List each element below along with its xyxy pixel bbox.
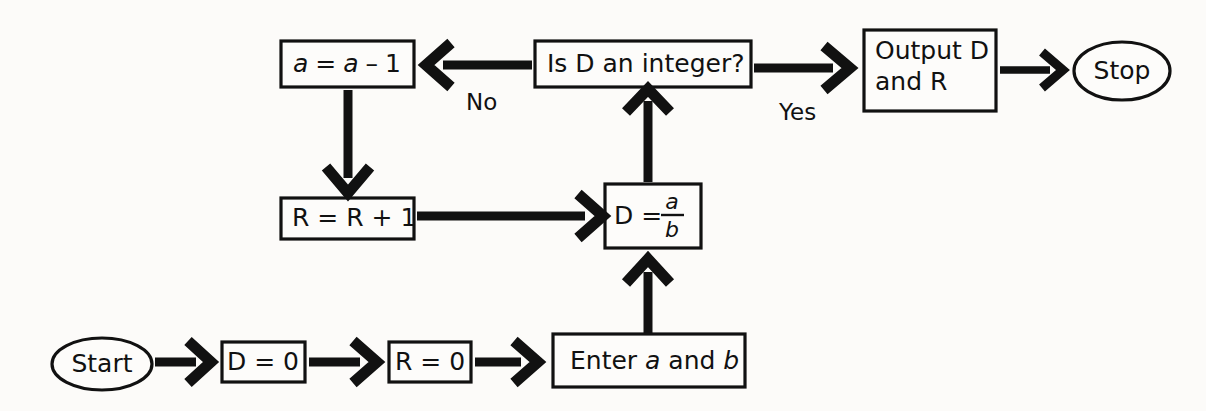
node-decrement-op-minus: – [366, 49, 379, 78]
node-enter-text-plain: Enter [570, 346, 645, 375]
node-enter-var-a: a [645, 346, 660, 375]
node-decrement[interactable]: a=a–1 [281, 41, 414, 87]
node-r-init-label: R = 0 [395, 347, 465, 376]
node-decrement-op-eq: = [315, 49, 336, 78]
edge-output-to-stop [1000, 52, 1063, 88]
node-increment-label: R = R + 1 [292, 203, 416, 232]
edge-enter-to-divide [626, 259, 670, 333]
node-enter-var-b: b [723, 346, 739, 375]
node-divide-numerator: a [665, 189, 678, 214]
flowchart-canvas: a=a–1 Is D an integer? Output D and R St… [0, 0, 1206, 411]
node-stop-label: Stop [1094, 56, 1151, 85]
edge-start-to-d-init [155, 341, 211, 383]
node-divide-denominator: b [665, 217, 679, 242]
edge-label-no: No [466, 89, 497, 115]
node-output[interactable]: Output D and R [864, 30, 996, 111]
edge-decrement-to-increment [326, 90, 370, 193]
edge-divide-to-decision [626, 89, 670, 182]
edge-r-init-to-enter [475, 341, 538, 383]
node-output-label-line2: and R [875, 67, 947, 96]
edge-increment-to-divide [417, 194, 603, 238]
node-divide-lhs: D = [614, 201, 662, 230]
node-start[interactable]: Start [52, 338, 152, 390]
node-enter[interactable]: Enter a and b [553, 334, 745, 387]
node-d-init[interactable]: D = 0 [222, 342, 305, 382]
node-decision-label: Is D an integer? [547, 49, 744, 78]
node-d-init-label: D = 0 [227, 347, 299, 376]
node-increment[interactable]: R = R + 1 [281, 198, 416, 239]
edge-decision-to-decrement: No [426, 43, 532, 115]
flowchart-svg: a=a–1 Is D an integer? Output D and R St… [0, 0, 1206, 411]
node-start-label: Start [71, 349, 132, 378]
node-stop[interactable]: Stop [1074, 42, 1170, 100]
edge-label-yes: Yes [778, 99, 816, 125]
node-enter-text-mid: and [660, 346, 723, 375]
node-decision[interactable]: Is D an integer? [535, 41, 751, 87]
node-divide[interactable]: D = a b [605, 184, 701, 248]
node-decrement-num-one: 1 [385, 49, 401, 78]
node-decrement-var-a1: a [293, 49, 308, 78]
node-r-init[interactable]: R = 0 [389, 342, 471, 382]
edge-d-init-to-r-init [309, 341, 377, 383]
node-decrement-var-a2: a [343, 49, 358, 78]
node-output-label-line1: Output D [875, 36, 989, 65]
edge-decision-to-output: Yes [754, 46, 850, 125]
node-enter-label: Enter a and b [570, 346, 739, 375]
